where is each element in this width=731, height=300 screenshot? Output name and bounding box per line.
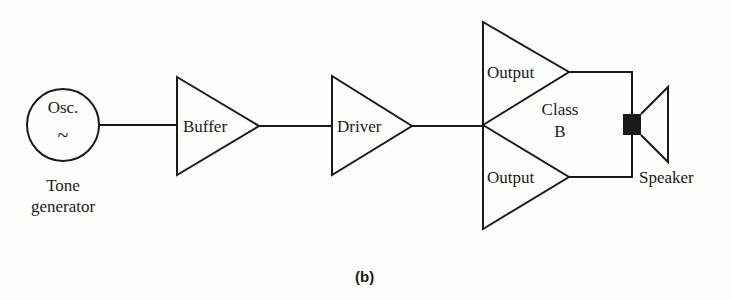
speaker-label: Speaker <box>639 168 694 187</box>
output-bottom-label: Output <box>487 168 534 187</box>
generator-label: generator <box>13 197 113 216</box>
speaker-cone-icon <box>641 87 668 162</box>
output-top-label: Output <box>487 63 534 82</box>
class-label: Class <box>530 100 590 119</box>
sine-wave-icon: ~ <box>33 126 93 145</box>
osc-label: Osc. <box>33 98 93 117</box>
driver-label: Driver <box>337 117 381 136</box>
diagram-canvas <box>0 0 731 300</box>
tone-label: Tone <box>13 176 113 195</box>
buffer-label: Buffer <box>183 117 227 136</box>
speaker-magnet-icon <box>623 114 641 135</box>
figure-caption: (b) <box>355 268 374 285</box>
class-b-label: B <box>530 122 590 141</box>
